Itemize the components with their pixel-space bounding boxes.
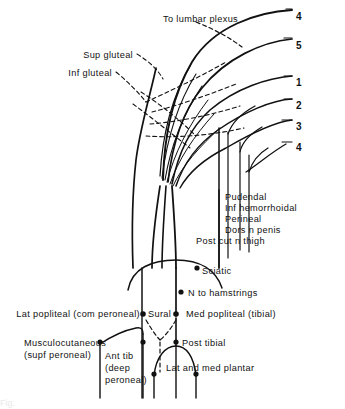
label-lat-popliteal: Lat popliteal (com peroneal) <box>0 309 140 320</box>
label-musculocutaneous-line2: (supf peroneal) <box>24 350 91 361</box>
label-inf-hemorrhoidal: Inf hemorrhoidal <box>225 203 297 214</box>
label-ant-tib-line1: Ant tib <box>105 351 134 362</box>
pelvic-branch-hooks <box>228 106 268 172</box>
label-to-lumbar-plexus: To lumbar plexus <box>163 14 238 25</box>
label-n-to-hamstrings: N to hamstrings <box>188 288 258 299</box>
label-post-cut-n-thigh: Post cut n thigh <box>196 236 265 247</box>
root-number-s3: 3 <box>296 121 302 132</box>
medial-popliteal-trunk <box>172 186 176 316</box>
root-number-s2: 2 <box>296 100 302 111</box>
label-ant-tib-line3: peroneal) <box>105 375 147 386</box>
leader-inf-gluteal <box>116 72 146 102</box>
root-number-l5: 5 <box>296 40 302 51</box>
root-number-s1: 1 <box>296 77 302 88</box>
label-med-popliteal: Med popliteal (tibial) <box>186 309 276 320</box>
label-perineal: Perineal <box>225 214 262 225</box>
sciatic-left-descending <box>152 186 166 268</box>
lateral-popliteal-trunk <box>132 68 156 314</box>
label-ant-tib-line2: (deep <box>105 363 130 374</box>
label-musculocutaneous-line1: Musculocutaneous <box>24 338 106 349</box>
leader-sup-gluteal <box>137 54 163 79</box>
label-sup-gluteal: Sup gluteal <box>0 50 133 61</box>
root-number-s4: 4 <box>296 142 302 153</box>
clipped-figure-caption: Fig. <box>0 398 345 409</box>
root-curve-s4 <box>246 144 286 172</box>
root-curve-l5 <box>168 39 292 182</box>
label-sural: Sural <box>148 309 171 320</box>
anatomical-figure: To lumbar plexus Sup gluteal Inf gluteal… <box>0 0 345 409</box>
label-dors-n-penis: Dors n penis <box>225 225 281 236</box>
label-inf-gluteal: Inf gluteal <box>0 68 112 79</box>
label-sciatic: Sciatic <box>202 266 232 277</box>
label-post-tibial: Post tibial <box>182 338 226 349</box>
label-lat-and-med-plantar: Lat and med plantar <box>166 363 254 374</box>
root-number-l4: 4 <box>296 11 302 22</box>
root-curve-s3 <box>180 120 292 188</box>
root-curve-s2 <box>176 99 292 186</box>
label-pudendal: Pudendal <box>225 192 267 203</box>
